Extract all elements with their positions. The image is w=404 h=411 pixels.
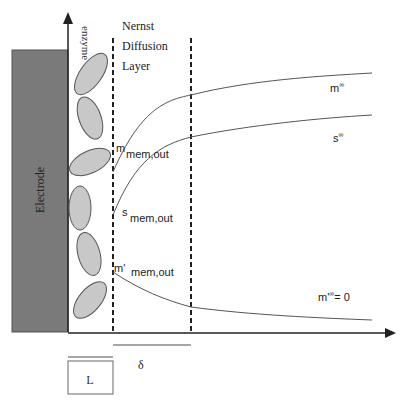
x-axis-arrow-icon	[385, 328, 396, 338]
s-concentration-curve	[113, 115, 372, 215]
L-label: L	[86, 373, 93, 387]
electrode-label: Electrode	[33, 167, 47, 213]
nernst-title-line2: Diffusion	[122, 39, 168, 53]
enzyme-ellipse	[69, 186, 91, 230]
s-inf-label: s∞	[333, 131, 344, 144]
mprime-mem-out-label: m'	[114, 262, 125, 274]
enzyme-ellipse	[67, 276, 112, 324]
enzyme-label: enzyme	[80, 26, 92, 60]
mprime-mem-out-sub: mem,out	[131, 266, 174, 278]
s-mem-out-sub: mem,out	[130, 212, 173, 224]
mprime-inf-label: m'∞= 0	[318, 290, 350, 303]
nernst-title-line3: Layer	[122, 59, 150, 73]
diagram-canvas: Electrode enzyme Nernst Diffusion Layer …	[0, 0, 404, 411]
enzyme-molecules	[65, 48, 114, 324]
nernst-title-line1: Nernst	[122, 19, 155, 33]
m-mem-out-sub: mem,out	[126, 148, 169, 160]
y-axis-arrow-icon	[63, 12, 73, 24]
m-mem-out-label: m	[116, 142, 125, 154]
enzyme-ellipse	[72, 94, 108, 143]
m-inf-label: m∞	[330, 81, 344, 94]
s-mem-out-label: s	[122, 206, 128, 218]
enzyme-ellipse	[65, 143, 114, 182]
enzyme-ellipse	[73, 230, 106, 278]
delta-label: δ	[138, 358, 144, 372]
